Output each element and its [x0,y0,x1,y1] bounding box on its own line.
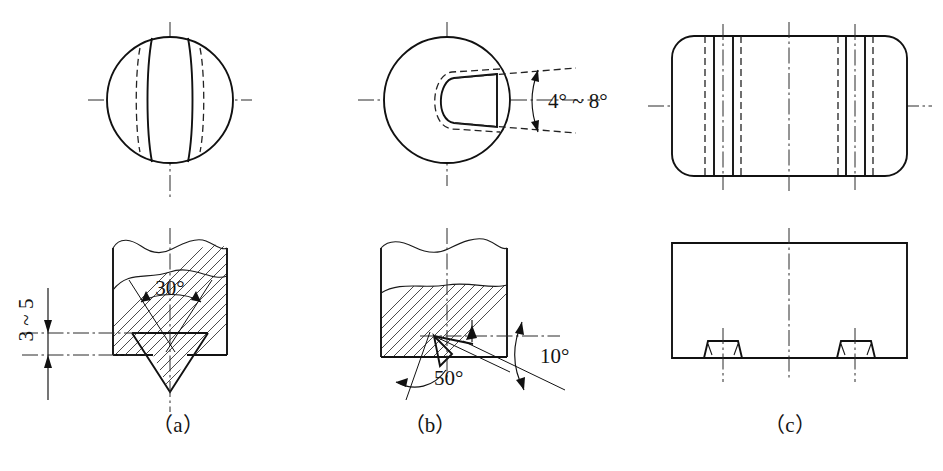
panel-a-top-view [88,22,252,200]
panel-b-front-view: 50° 10° [300,200,600,400]
panel-c-top-view [648,22,932,192]
break-line-top [381,239,507,252]
dim-arrow-up [44,320,52,333]
panel-a: 3 ~ 5 30° （a） [14,22,350,437]
dim-arrow-down [44,355,52,368]
angle10-arrow-top [515,322,524,335]
panel-c-front-view [672,228,907,382]
angle-text-4-8: 4° ~ 8° [548,89,608,113]
dovetail-slot-right-inner [841,344,871,355]
panel-a-front-view: 3 ~ 5 30° [14,150,350,412]
angle10-arrow-bottom [516,377,525,390]
panel-c: （c） [648,22,932,437]
panel-caption-a: （a） [152,413,203,437]
angle-text-50: 50° [434,366,463,390]
angle-arrow-right [191,291,201,302]
dimension-text-3-5: 3 ~ 5 [14,299,38,342]
panel-b: 4° ~ 8° [300,22,608,437]
bar-outline-circle [384,37,510,163]
bar-outline-circle [107,37,233,163]
angle50-arrow [396,378,408,387]
technical-drawing-figure: 3 ~ 5 30° （a） [0,0,943,471]
angle-text-10: 10° [540,344,569,368]
panel-caption-b: （b） [404,413,457,437]
angle-text-30: 30° [155,276,184,300]
drawing-canvas: 3 ~ 5 30° （a） [0,0,943,471]
panel-caption-c: （c） [764,413,815,437]
panel-b-top-view: 4° ~ 8° [358,22,608,186]
